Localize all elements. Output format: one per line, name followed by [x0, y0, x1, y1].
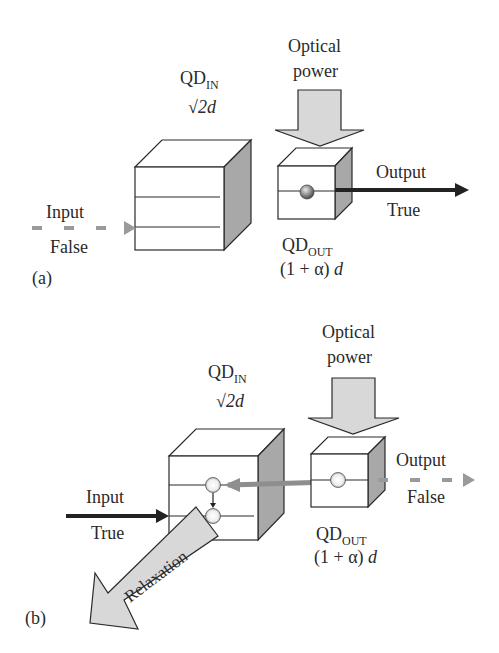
optical-power-arrow-b	[308, 378, 399, 434]
output-state-a: True	[387, 200, 420, 220]
qd-out-cube-a	[278, 148, 352, 219]
optical-power-label-b-line1: Optical	[322, 322, 375, 342]
output-arrow-solid-a	[335, 183, 469, 197]
output-label-b: Output	[396, 450, 446, 470]
optical-power-label-a-line1: Optical	[288, 36, 341, 56]
input-arrow-dashed-a	[32, 221, 136, 235]
input-label-a: Input	[46, 202, 84, 222]
optical-power-arrow-a	[275, 90, 364, 146]
qd-out-label-a: QDOUT	[282, 235, 333, 259]
input-state-b: True	[91, 523, 124, 543]
qd-out-size-a: (1 + α) d	[280, 259, 344, 280]
panel-a: QDIN √2d Input False Optical power	[32, 36, 469, 289]
electron-ball-upper	[206, 478, 221, 493]
qd-in-label-a: QDIN	[180, 68, 219, 92]
panel-tag-b: (b)	[25, 608, 46, 629]
diagram-canvas: QDIN √2d Input False Optical power	[0, 0, 499, 653]
optical-power-label-b-line2: power	[327, 347, 372, 367]
input-arrow-solid-b	[66, 509, 169, 523]
qd-in-label-b: QDIN	[208, 362, 247, 386]
output-label-a: Output	[376, 162, 426, 182]
qd-out-label-b: QDOUT	[316, 524, 367, 548]
qd-out-cube-b	[311, 437, 385, 507]
electron-ball-lower	[206, 509, 221, 524]
optical-power-label-a-line2: power	[293, 61, 338, 81]
input-state-a: False	[50, 237, 88, 257]
panel-b: QDIN √2d Input True Relaxat	[25, 322, 475, 629]
qd-out-size-b: (1 + α) d	[314, 547, 378, 568]
output-state-b: False	[407, 487, 445, 507]
input-label-b: Input	[86, 487, 124, 507]
output-arrow-dashed-b	[370, 473, 475, 487]
electron-ball-out	[331, 473, 346, 488]
panel-tag-a: (a)	[32, 268, 52, 289]
electron-ball	[300, 185, 314, 199]
qd-in-size-b: √2d	[216, 391, 245, 411]
qd-in-size-a: √2d	[188, 97, 217, 117]
qd-in-cube-a	[135, 140, 251, 250]
